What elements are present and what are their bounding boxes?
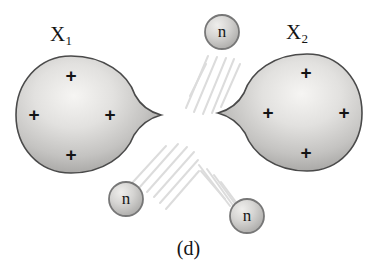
trail-group-top bbox=[186, 56, 240, 114]
neutron-top-circle bbox=[205, 15, 239, 49]
fragment-x2-label: X2 bbox=[286, 22, 308, 45]
charge-plus: + bbox=[300, 142, 311, 163]
neutron-bottom-left-circle bbox=[109, 182, 143, 216]
neutron-bottom-right bbox=[230, 199, 264, 233]
neutron-bottom-right-circle bbox=[230, 199, 264, 233]
fragment-x2: + + + + bbox=[218, 54, 362, 171]
charge-plus: + bbox=[65, 65, 76, 86]
neutron-top bbox=[205, 15, 239, 49]
charge-plus: + bbox=[104, 104, 115, 125]
charge-plus: + bbox=[338, 102, 349, 123]
charge-plus: + bbox=[65, 144, 76, 165]
fragment-x1-label-subscript: 1 bbox=[65, 33, 72, 48]
neutron-bottom-left bbox=[109, 182, 143, 216]
fragment-x1: + + + + bbox=[16, 56, 161, 173]
motion-trails bbox=[133, 56, 250, 221]
fission-diagram-figure: + + + + + + + + X1 X2 n bbox=[0, 0, 377, 271]
fragment-x1-label: X1 bbox=[50, 24, 72, 47]
charge-plus: + bbox=[300, 62, 311, 83]
panel-caption: (d) bbox=[0, 238, 377, 258]
fragment-x2-label-subscript: 2 bbox=[301, 31, 308, 46]
charge-plus: + bbox=[262, 102, 273, 123]
charge-plus: + bbox=[28, 104, 39, 125]
fragment-x2-label-text: X bbox=[286, 20, 301, 44]
fragment-x1-label-text: X bbox=[50, 22, 65, 46]
